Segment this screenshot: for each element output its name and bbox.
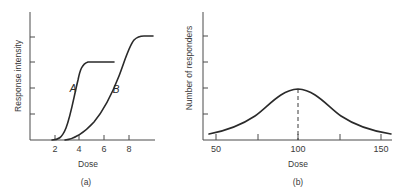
- x-tick-label-a-2: 2: [52, 144, 57, 154]
- panel-b: 50 100 150 Number of responders Dose (b): [184, 12, 392, 187]
- x-tick-label-a-4: 4: [76, 144, 81, 154]
- x-tick-label-b-100: 100: [290, 144, 305, 154]
- y-ticks-b: [203, 36, 208, 114]
- figure-canvas: 2 4 6 8 A B Response intensity Dose (a): [0, 0, 402, 196]
- x-tick-label-b-150: 150: [373, 144, 388, 154]
- x-tick-label-b-50: 50: [211, 144, 221, 154]
- x-tick-label-a-6: 6: [101, 144, 106, 154]
- x-axis-label-a: Dose: [78, 159, 98, 169]
- panel-caption-b: (b): [293, 177, 304, 187]
- curve-a: [52, 62, 114, 140]
- responders-curve: [209, 89, 391, 134]
- panel-caption-a: (a): [81, 177, 92, 187]
- panel-a: 2 4 6 8 A B Response intensity Dose (a): [13, 12, 155, 187]
- curve-label-a: A: [69, 83, 77, 94]
- y-ticks-a: [30, 37, 35, 114]
- curve-label-b: B: [113, 84, 120, 95]
- y-axis-label-b: Number of responders: [184, 26, 194, 111]
- x-axis-label-b: Dose: [288, 159, 308, 169]
- curve-b: [65, 36, 153, 140]
- y-axis-label-a: Response intensity: [13, 39, 23, 112]
- x-tick-label-a-8: 8: [126, 144, 131, 154]
